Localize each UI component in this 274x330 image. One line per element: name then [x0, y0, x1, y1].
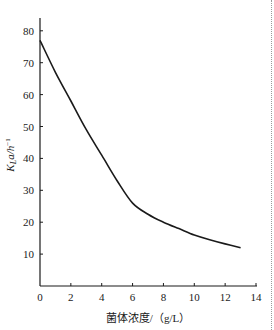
x-tick-label: 14 — [251, 291, 263, 303]
x-tick-label: 12 — [220, 291, 231, 303]
x-axis: 02468101214 — [37, 283, 262, 303]
y-tick-label: 80 — [23, 25, 35, 37]
page-edge-dotted-line — [271, 0, 272, 330]
y-tick-label: 10 — [23, 248, 35, 260]
y-tick-label: 50 — [23, 121, 35, 133]
y-tick-label: 60 — [23, 89, 35, 101]
x-axis-title: 菌体浓度/（g/L） — [106, 311, 190, 324]
y-tick-label: 70 — [23, 57, 35, 69]
x-tick-label: 0 — [37, 291, 43, 303]
x-tick-label: 10 — [189, 291, 201, 303]
x-tick-label: 4 — [99, 291, 105, 303]
x-tick-label: 6 — [130, 291, 136, 303]
y-axis-title: KLa/h−1 — [4, 138, 18, 173]
kla-curve — [40, 40, 241, 247]
chart: 1020304050607080 02468101214 KLa/h−1 菌体浓… — [0, 0, 274, 330]
y-tick-label: 40 — [23, 152, 35, 164]
y-tick-label: 30 — [23, 184, 35, 196]
x-tick-label: 8 — [161, 291, 167, 303]
y-axis: 1020304050607080 — [23, 18, 43, 286]
x-tick-label: 2 — [68, 291, 74, 303]
y-tick-label: 20 — [23, 216, 35, 228]
